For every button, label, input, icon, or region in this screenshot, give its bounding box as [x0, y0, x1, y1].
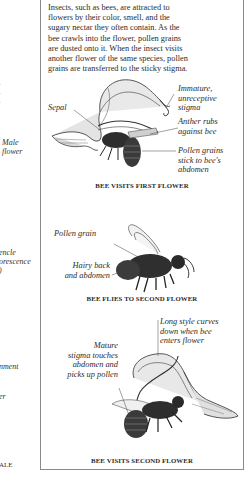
second-flower-illustration — [0, 0, 247, 477]
label-long-style: Long style curves down when bee enters f… — [160, 317, 219, 346]
caption-second-flower: BEE VISITS SECOND FLOWER — [40, 457, 244, 464]
label-mature-stigma: Mature stigma touches abdomen and picks … — [44, 341, 118, 379]
